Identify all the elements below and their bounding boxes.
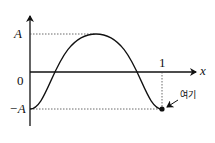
annotation-label: 여기 (180, 89, 196, 100)
label-A: A (13, 26, 22, 41)
wave-diagram: A 0 −A 1 x 여기 (0, 0, 215, 143)
marked-point (159, 106, 164, 111)
label-x: x (199, 63, 206, 78)
label-minus-A: −A (9, 101, 26, 116)
annotation-arrow (167, 100, 178, 107)
label-x1: 1 (159, 55, 166, 70)
label-zero: 0 (17, 73, 24, 88)
